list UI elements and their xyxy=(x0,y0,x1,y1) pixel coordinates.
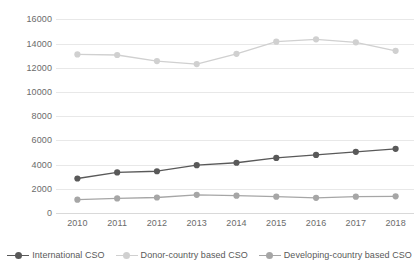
x-axis-tick-label: 2016 xyxy=(294,217,338,229)
data-point xyxy=(353,149,359,155)
legend-label: Developing-country based CSO xyxy=(284,250,412,261)
x-axis-tick-label: 2014 xyxy=(215,217,259,229)
series-developing-country-based-cso xyxy=(74,192,398,203)
data-point xyxy=(393,48,399,54)
legend-marker-icon xyxy=(7,250,29,260)
data-point xyxy=(194,162,200,168)
data-point xyxy=(233,160,239,166)
legend-dot xyxy=(15,252,22,259)
line-chart: 1600014000120001000080006000400020000 20… xyxy=(0,0,419,268)
data-point xyxy=(194,192,200,198)
data-point xyxy=(353,39,359,45)
x-axis-tick-label: 2015 xyxy=(254,217,298,229)
data-point xyxy=(194,61,200,67)
data-point xyxy=(273,39,279,45)
x-axis-tick-label: 2011 xyxy=(95,217,139,229)
legend-item[interactable]: Donor-country based CSO xyxy=(116,250,248,261)
legend-item[interactable]: Developing-country based CSO xyxy=(259,250,412,261)
legend-label: International CSO xyxy=(32,250,104,261)
data-point xyxy=(114,195,120,201)
data-point xyxy=(154,58,160,64)
legend-dot xyxy=(266,252,273,259)
chart-legend: International CSODonor-country based CSO… xyxy=(0,246,419,264)
data-point xyxy=(74,51,80,57)
legend-label: Donor-country based CSO xyxy=(141,250,248,261)
data-point xyxy=(353,194,359,200)
legend-dot xyxy=(123,252,130,259)
legend-item[interactable]: International CSO xyxy=(7,250,104,261)
data-point xyxy=(273,194,279,200)
x-axis: 201020112012201320142015201620172018 xyxy=(0,217,419,233)
data-point xyxy=(313,195,319,201)
legend-marker-icon xyxy=(116,250,138,260)
data-point xyxy=(233,51,239,57)
x-axis-tick-label: 2017 xyxy=(334,217,378,229)
data-point xyxy=(273,155,279,161)
data-point xyxy=(393,146,399,152)
x-axis-tick-label: 2010 xyxy=(55,217,99,229)
data-point xyxy=(114,52,120,58)
x-axis-tick-label: 2013 xyxy=(175,217,219,229)
data-point xyxy=(154,194,160,200)
legend-marker-icon xyxy=(259,250,281,260)
series-donor-country-based-cso xyxy=(74,36,398,67)
data-point xyxy=(313,152,319,158)
x-axis-tick-label: 2018 xyxy=(374,217,418,229)
x-axis-tick-label: 2012 xyxy=(135,217,179,229)
data-point xyxy=(393,193,399,199)
series-international-cso xyxy=(74,146,398,182)
data-point xyxy=(313,36,319,42)
data-point xyxy=(74,175,80,181)
data-point xyxy=(114,169,120,175)
data-point xyxy=(74,197,80,203)
data-point xyxy=(154,168,160,174)
data-point xyxy=(233,193,239,199)
